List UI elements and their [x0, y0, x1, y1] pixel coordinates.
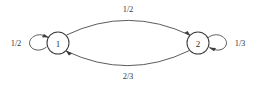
state-diagram: 1 2 1/2 2/3 1/2 1/3: [0, 0, 255, 86]
edge-1-to-2-path: [67, 20, 191, 35]
self-loop-node-2-arrowhead: [209, 48, 216, 52]
state-diagram-canvas: 1 2 1/2 2/3 1/2 1/3: [0, 0, 255, 86]
self-loop-right-label: 1/3: [235, 38, 245, 48]
state-node-1-label: 1: [56, 39, 61, 49]
edge-top-label: 1/2: [123, 4, 133, 14]
self-loop-node-1-arrowhead: [42, 34, 49, 37]
edge-bottom-label: 2/3: [123, 71, 133, 81]
self-loop-left-label: 1/2: [11, 38, 21, 48]
edge-2-to-1-path: [66, 51, 190, 66]
state-node-2-label: 2: [196, 39, 201, 49]
